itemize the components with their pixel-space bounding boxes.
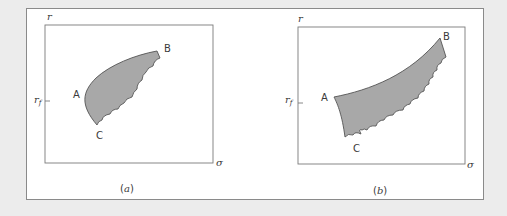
panel-a-feasible-region [85, 51, 160, 125]
panel-a-rf-label: rf [34, 94, 43, 107]
panel-a-x-axis-label: σ [216, 157, 224, 168]
panel-b-y-axis-label: r [298, 13, 304, 24]
panel-a-point-a-label: A [73, 89, 80, 100]
panel-b-point-a-label: A [321, 92, 328, 103]
panel-b-feasible-region [334, 38, 446, 137]
panel-b-rf-label: rf [285, 94, 294, 107]
panel-b-x-axis-label: σ [467, 159, 475, 170]
panel-b-point-b-label: B [443, 31, 450, 42]
panel-b: r σ rf A B C (b) [285, 13, 475, 196]
panel-a-point-b-label: B [164, 43, 171, 54]
figure-svg: r σ rf A B C (a) r σ rf A B C (b) [0, 0, 507, 216]
panel-a-point-c-label: C [96, 130, 103, 141]
panel-a: r σ rf A B C (a) [34, 11, 224, 194]
panel-b-caption: (b) [373, 185, 387, 196]
panel-a-y-axis-label: r [47, 11, 53, 22]
panel-a-caption: (a) [120, 183, 134, 194]
panel-b-point-c-label: C [353, 143, 360, 154]
